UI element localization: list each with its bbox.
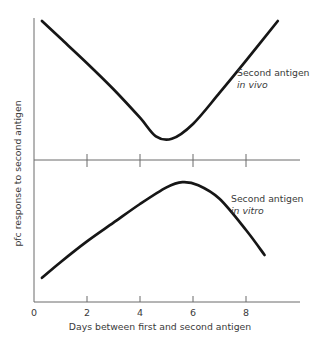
x-tick-label-4: 4: [137, 307, 143, 318]
annotation-in-vivo-line1: Second antigen: [237, 67, 310, 79]
x-tick-label-6: 6: [190, 307, 196, 318]
annotation-in-vitro-line1: Second antigen: [231, 193, 304, 205]
x-tick-label-0: 0: [31, 307, 37, 318]
chart-plot-area: 0 2 4 6 8: [0, 0, 323, 345]
annotation-in-vitro-line2: in vitro: [231, 205, 304, 217]
x-tick-label-8: 8: [243, 307, 249, 318]
y-axis-title: pfc response to second antigen: [12, 74, 23, 274]
x-tick-label-2: 2: [84, 307, 90, 318]
annotation-in-vivo: Second antigen in vivo: [237, 67, 310, 90]
chart-figure: 0 2 4 6 8 Second antigen in vivo Second …: [0, 0, 323, 345]
x-axis-title: Days between first and second antigen: [34, 321, 286, 332]
annotation-in-vitro: Second antigen in vitro: [231, 193, 304, 216]
annotation-in-vivo-line2: in vivo: [237, 79, 310, 91]
